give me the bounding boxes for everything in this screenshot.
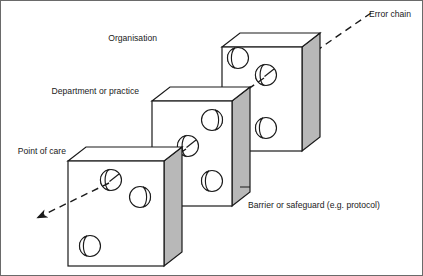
slab-point-of-care-top bbox=[68, 147, 182, 161]
hole-department-3 bbox=[202, 171, 223, 192]
hole-department-1 bbox=[202, 110, 223, 131]
label-organisation: Organisation bbox=[108, 33, 157, 43]
label-point-of-care: Point of care bbox=[18, 146, 66, 156]
hole-point-of-care-pierced bbox=[100, 170, 121, 191]
slab-point-of-care-side bbox=[164, 147, 182, 266]
slab-department-side bbox=[232, 87, 250, 206]
slab-department-top bbox=[152, 87, 250, 101]
slab-point-of-care[interactable] bbox=[68, 147, 182, 266]
hole-organisation-1 bbox=[228, 48, 249, 69]
hole-point-of-care-2 bbox=[130, 187, 151, 208]
label-department: Department or practice bbox=[52, 86, 140, 96]
diagram-canvas: Organisation Department or practice Poin… bbox=[0, 0, 423, 276]
slab-organisation-top bbox=[222, 33, 320, 47]
slab-organisation-side bbox=[302, 33, 320, 151]
label-barrier: Barrier or safeguard (e.g. protocol) bbox=[248, 200, 380, 210]
hole-point-of-care-3 bbox=[80, 236, 101, 257]
swiss-cheese-diagram: Organisation Department or practice Poin… bbox=[0, 0, 423, 276]
hole-organisation-3 bbox=[256, 118, 277, 139]
label-error-chain: Error chain bbox=[369, 9, 411, 19]
